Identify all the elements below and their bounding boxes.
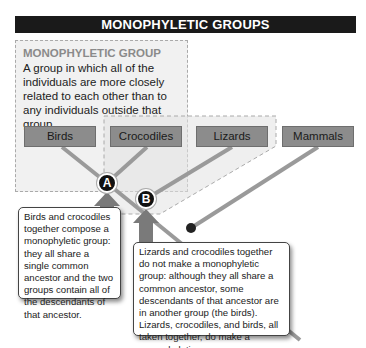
definition-heading: MONOPHYLETIC GROUP: [23, 47, 161, 59]
taxon-birds: Birds: [24, 126, 96, 147]
callout-lizards-crocodiles: Lizards and crocodiles together do not m…: [133, 242, 290, 336]
taxon-crocodiles: Crocodiles: [110, 126, 182, 147]
callout-birds-crocodiles: Birds and crocodiles together compose a …: [18, 207, 121, 299]
taxon-lizards: Lizards: [196, 126, 268, 147]
node-b: B: [136, 189, 156, 209]
node-a: A: [97, 173, 117, 193]
root-node-dot: [186, 223, 196, 233]
taxon-mammals: Mammals: [282, 126, 354, 147]
definition-text: A group in which all of the individuals …: [23, 61, 188, 131]
